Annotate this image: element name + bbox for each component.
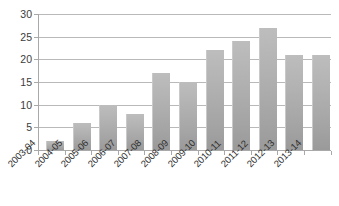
bar-2013-14 bbox=[312, 55, 330, 150]
bar-2009-10 bbox=[206, 50, 224, 150]
bar-2004-05 bbox=[73, 123, 91, 150]
y-tick-mark-15 bbox=[34, 82, 39, 83]
y-tick-label-30: 30 bbox=[2, 9, 32, 19]
x-tick-mark-7 bbox=[224, 151, 225, 155]
y-tick-label-5: 5 bbox=[2, 122, 32, 132]
x-tick-mark-10 bbox=[304, 151, 305, 155]
x-tick-mark-0 bbox=[38, 151, 39, 155]
bar-2008-09 bbox=[179, 82, 197, 150]
y-tick-label-15: 15 bbox=[2, 77, 32, 87]
bar-2003-04 bbox=[46, 141, 64, 150]
bar-chart: 30 25 20 15 10 5 0 2003-04 2004-05 2005-… bbox=[0, 0, 339, 206]
bar-2005-06 bbox=[99, 105, 117, 150]
bar-2006-07 bbox=[126, 114, 144, 150]
x-tick-mark-9 bbox=[277, 151, 278, 155]
x-axis-line bbox=[38, 150, 331, 151]
y-tick-mark-30 bbox=[34, 14, 39, 15]
bar-2011-12 bbox=[259, 28, 277, 150]
x-tick-mark-5 bbox=[171, 151, 172, 155]
bar-2012-13 bbox=[285, 55, 303, 150]
x-tick-mark-8 bbox=[251, 151, 252, 155]
x-tick-mark-3 bbox=[118, 151, 119, 155]
bar-2007-08 bbox=[152, 73, 170, 150]
y-axis-tick-labels: 30 25 20 15 10 5 0 bbox=[0, 0, 32, 206]
y-tick-mark-25 bbox=[34, 37, 39, 38]
y-tick-mark-5 bbox=[34, 127, 39, 128]
y-tick-label-20: 20 bbox=[2, 54, 32, 64]
y-tick-label-25: 25 bbox=[2, 32, 32, 42]
x-tick-mark-1 bbox=[65, 151, 66, 155]
y-tick-mark-10 bbox=[34, 105, 39, 106]
x-tick-mark-11 bbox=[331, 151, 332, 155]
bars-layer bbox=[38, 14, 331, 150]
y-tick-label-0: 0 bbox=[2, 145, 32, 155]
bar-2010-11 bbox=[232, 41, 250, 150]
x-tick-mark-4 bbox=[144, 151, 145, 155]
y-tick-label-10: 10 bbox=[2, 100, 32, 110]
x-tick-mark-6 bbox=[198, 151, 199, 155]
x-tick-mark-2 bbox=[91, 151, 92, 155]
y-tick-mark-20 bbox=[34, 59, 39, 60]
